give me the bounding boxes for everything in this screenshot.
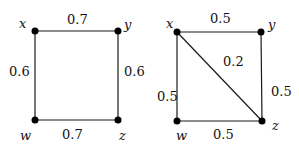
edge-weight-x-y: 0.7 [67, 12, 88, 27]
node-label-z: z [118, 128, 126, 143]
edge-weight-x-y: 0.5 [210, 11, 231, 26]
right-graph: x y w z 0.5 0.2 0.5 0.5 0.5 [157, 11, 292, 143]
node-y [115, 28, 122, 35]
edge-weight-y-z: 0.6 [124, 64, 145, 79]
node-label-y: y [267, 17, 276, 32]
edge-weight-x-w: 0.6 [9, 64, 30, 79]
node-w [32, 117, 39, 124]
edge-y-z [261, 32, 262, 121]
node-label-w: w [20, 128, 31, 143]
node-z [115, 117, 122, 124]
edge-weight-x-w: 0.5 [157, 89, 178, 104]
edge-weight-w-z: 0.7 [62, 127, 83, 142]
node-label-y: y [123, 17, 132, 32]
node-w [174, 118, 181, 125]
graph-diagram: x y w z 0.7 0.6 0.6 0.7 x y w z 0.5 0.2 … [0, 0, 299, 148]
node-x [32, 28, 39, 35]
edge-weight-x-z: 0.2 [223, 54, 244, 69]
node-y [258, 29, 265, 36]
left-graph: x y w z 0.7 0.6 0.6 0.7 [9, 12, 145, 143]
node-label-w: w [176, 128, 187, 143]
node-label-z: z [271, 118, 279, 133]
node-x [174, 29, 181, 36]
node-label-x: x [19, 16, 27, 31]
edge-x-z [177, 32, 262, 121]
edge-weight-w-z: 0.5 [213, 127, 234, 142]
node-z [259, 118, 266, 125]
node-label-x: x [166, 16, 174, 31]
edge-weight-y-z: 0.5 [271, 84, 292, 99]
